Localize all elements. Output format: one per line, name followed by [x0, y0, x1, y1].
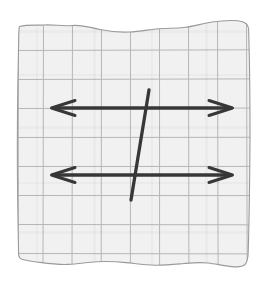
figure-root: Parallel lines cut by a transversal on g… [0, 0, 268, 291]
geometry-figure: Parallel lines cut by a transversal on g… [0, 0, 268, 291]
graph-paper-sheet [17, 20, 250, 266]
